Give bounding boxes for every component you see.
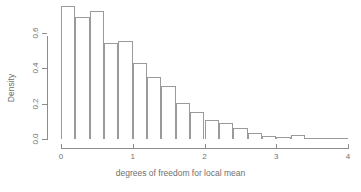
x-axis-title: degrees of freedom for local mean	[0, 168, 361, 178]
x-axis-tick	[61, 144, 62, 149]
y-axis-tick	[42, 68, 47, 69]
histogram-bar	[276, 137, 290, 139]
x-axis-tick-label: 1	[131, 152, 135, 161]
x-axis-tick-label: 3	[274, 152, 278, 161]
histogram-bar	[133, 63, 147, 139]
x-axis-tick-label: 0	[59, 152, 63, 161]
histogram-bar	[248, 133, 262, 139]
histogram-bar	[61, 6, 75, 139]
y-axis-tick	[42, 139, 47, 140]
plot-area	[61, 6, 348, 139]
y-axis-line	[47, 36, 48, 140]
histogram-bar	[319, 138, 333, 139]
histogram-bar	[219, 123, 233, 139]
histogram-bar	[176, 103, 190, 139]
histogram-bar	[75, 17, 89, 139]
y-axis-tick-label: 0.6	[31, 26, 40, 40]
y-axis-tick-label: 0.4	[31, 61, 40, 75]
x-axis-tick	[133, 144, 134, 149]
histogram-bar	[104, 43, 118, 139]
histogram-chart: 01234 0.00.20.40.6 degrees of freedom fo…	[0, 0, 361, 192]
x-axis-tick-label: 4	[346, 152, 350, 161]
histogram-bar	[233, 128, 247, 139]
histogram-bar	[291, 135, 305, 139]
x-axis-tick-label: 2	[202, 152, 206, 161]
x-axis-tick	[276, 144, 277, 149]
histogram-bar	[205, 120, 219, 139]
x-axis-tick	[205, 144, 206, 149]
histogram-bar	[190, 112, 204, 139]
histogram-bar	[161, 86, 175, 139]
histogram-bar	[147, 77, 161, 139]
y-axis-tick	[42, 33, 47, 34]
histogram-bar	[334, 138, 348, 139]
x-axis-tick	[348, 144, 349, 149]
y-axis-tick-label: 0.2	[31, 97, 40, 111]
y-axis-tick	[42, 104, 47, 105]
histogram-bar	[305, 138, 319, 139]
histogram-bar	[90, 11, 104, 139]
y-axis-title: Density	[6, 74, 16, 102]
y-axis-tick-label: 0.0	[31, 132, 40, 146]
histogram-bar	[118, 41, 132, 139]
histogram-bar	[262, 136, 276, 139]
